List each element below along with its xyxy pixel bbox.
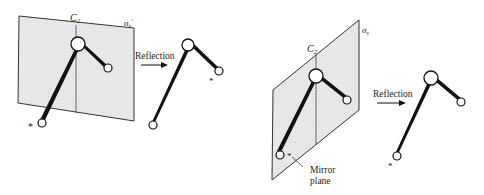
star-marker: * [28, 121, 33, 132]
terminal-atom [104, 64, 112, 72]
arrow-head-icon [161, 62, 168, 68]
terminal-atom-starred [393, 152, 401, 160]
terminal-atom [343, 96, 351, 104]
star-marker: * [209, 76, 214, 86]
terminal-atom-starred [276, 151, 284, 159]
star-marker: * [287, 151, 292, 161]
diagram-canvas: C2 σv′ * Reflection * [0, 0, 484, 195]
terminal-atom-starred [215, 67, 223, 75]
molecule-reflected: * [388, 71, 465, 171]
c2-label: C2 [307, 43, 318, 56]
sigma-v-prime-label: σv′ [124, 17, 133, 29]
left-panel: C2 σv′ * Reflection * [18, 12, 223, 132]
sigma-v-label: σv [362, 25, 369, 36]
central-atom [424, 71, 438, 85]
right-panel: C2 σv * Mirror plane Reflection [272, 20, 465, 186]
terminal-atom-starred [38, 119, 46, 127]
terminal-atom [457, 98, 465, 106]
reflection-label: Reflection [373, 89, 413, 99]
plane-label: plane [310, 176, 331, 186]
central-atom [182, 39, 194, 51]
terminal-atom [149, 121, 157, 129]
central-atom [71, 37, 85, 51]
central-atom [309, 69, 323, 83]
star-marker: * [388, 161, 393, 171]
arrow-head-icon [399, 100, 406, 106]
reflection-label: Reflection [135, 51, 175, 61]
mirror-label: Mirror [310, 165, 336, 175]
